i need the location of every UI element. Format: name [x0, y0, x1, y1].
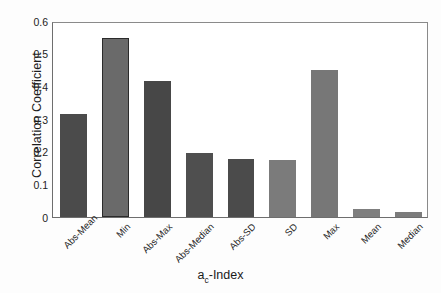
- bar: [144, 81, 171, 217]
- x-axis-tick-label: Abs-Mean: [61, 221, 91, 251]
- bar: [269, 160, 296, 217]
- y-axis-tick-label: 0: [22, 213, 48, 224]
- y-axis-tick-label: 0.5: [22, 49, 48, 60]
- y-axis-tick-label: 0.3: [22, 115, 48, 126]
- bar: [395, 212, 422, 217]
- y-axis-tick-labels: 00.10.20.30.40.50.6: [20, 0, 48, 293]
- bar: [102, 38, 129, 217]
- bar: [353, 209, 380, 217]
- bar: [311, 70, 338, 217]
- bar-series: [53, 23, 427, 217]
- x-axis-tick-labels: Abs-MeanMinAbs-MaxAbs-MedianAbs-SDSDMaxM…: [52, 218, 428, 274]
- y-axis-tick-label: 0.2: [22, 147, 48, 158]
- x-axis-title: ac-Index: [0, 268, 441, 285]
- chart-figure: Correlation Coefficient 00.10.20.30.40.5…: [0, 0, 441, 293]
- bar: [228, 159, 255, 217]
- x-axis-title-rest: -Index: [209, 268, 244, 282]
- y-axis-tick-label: 0.1: [22, 180, 48, 191]
- plot-area: [52, 22, 428, 218]
- y-axis-tick-label: 0.6: [22, 17, 48, 28]
- y-axis-tick-label: 0.4: [22, 82, 48, 93]
- bar: [186, 153, 213, 217]
- bar: [60, 114, 87, 217]
